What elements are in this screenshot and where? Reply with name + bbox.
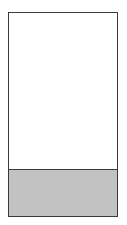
lower-region <box>9 170 117 216</box>
diagram-canvas <box>0 0 127 225</box>
upper-region <box>9 13 117 169</box>
figure-frame <box>8 12 118 217</box>
